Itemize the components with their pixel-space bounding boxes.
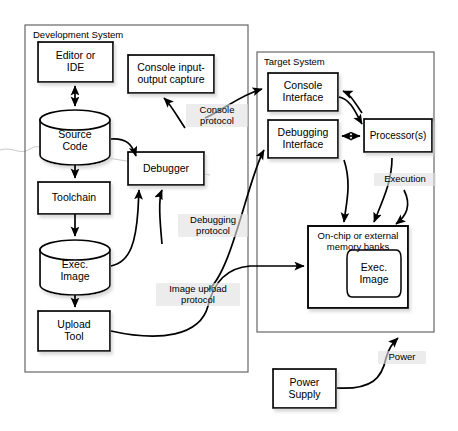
diagram-vector-layer	[0, 0, 458, 431]
node-processors-shape[interactable]	[364, 119, 432, 152]
connector-debugginginterface-debugger	[160, 190, 162, 244]
connector-consoleinterface-processor	[339, 97, 362, 124]
node-debugger-shape[interactable]	[128, 152, 204, 185]
connector-execution-memory	[396, 190, 408, 224]
connector-processor-memory	[374, 158, 392, 222]
node-editor-ide-shape[interactable]	[38, 42, 113, 82]
node-power-supply-shape[interactable]	[273, 369, 336, 408]
node-exec-image-dev-shape[interactable]	[40, 240, 110, 295]
diagram-canvas: Development System Target System Editor …	[0, 0, 458, 431]
node-console-capture-shape[interactable]	[128, 55, 214, 93]
connector-execimage-debugger	[111, 190, 139, 266]
node-exec-image-target-shape[interactable]	[347, 250, 401, 297]
node-toolchain-shape[interactable]	[38, 182, 110, 214]
node-debugging-interface-shape[interactable]	[268, 120, 338, 158]
node-upload-tool-shape[interactable]	[38, 311, 110, 351]
connector-uploadtool-memory	[111, 266, 304, 336]
connector-consoleinterface-consolecapture	[164, 98, 185, 128]
node-source-code-shape[interactable]	[40, 110, 110, 165]
connector-processor-consoleinterface	[343, 91, 362, 113]
connector-debug-memory-down	[344, 160, 348, 222]
node-console-interface-shape[interactable]	[268, 73, 338, 111]
connector-powersupply-target	[337, 338, 398, 388]
